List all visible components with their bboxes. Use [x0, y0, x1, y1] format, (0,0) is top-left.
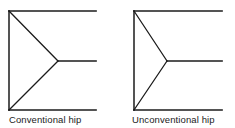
- conventional-lower-hip-rafter-line: [9, 61, 58, 110]
- unconventional-lower-hip-rafter-line: [134, 61, 167, 110]
- roof-diagrams-group: [0, 0, 235, 128]
- conventional-upper-hip-rafter-line: [9, 11, 58, 61]
- unconventional-hip-diagram: [134, 11, 222, 110]
- conventional-hip-caption: Conventional hip: [9, 114, 81, 125]
- hip-roof-comparison-figure: Conventional hip Unconventional hip: [0, 0, 235, 128]
- unconventional-hip-caption: Unconventional hip: [132, 114, 215, 125]
- unconventional-upper-hip-rafter-line: [134, 11, 167, 61]
- roof-diagrams-svg: [0, 0, 235, 128]
- conventional-hip-diagram: [9, 11, 96, 110]
